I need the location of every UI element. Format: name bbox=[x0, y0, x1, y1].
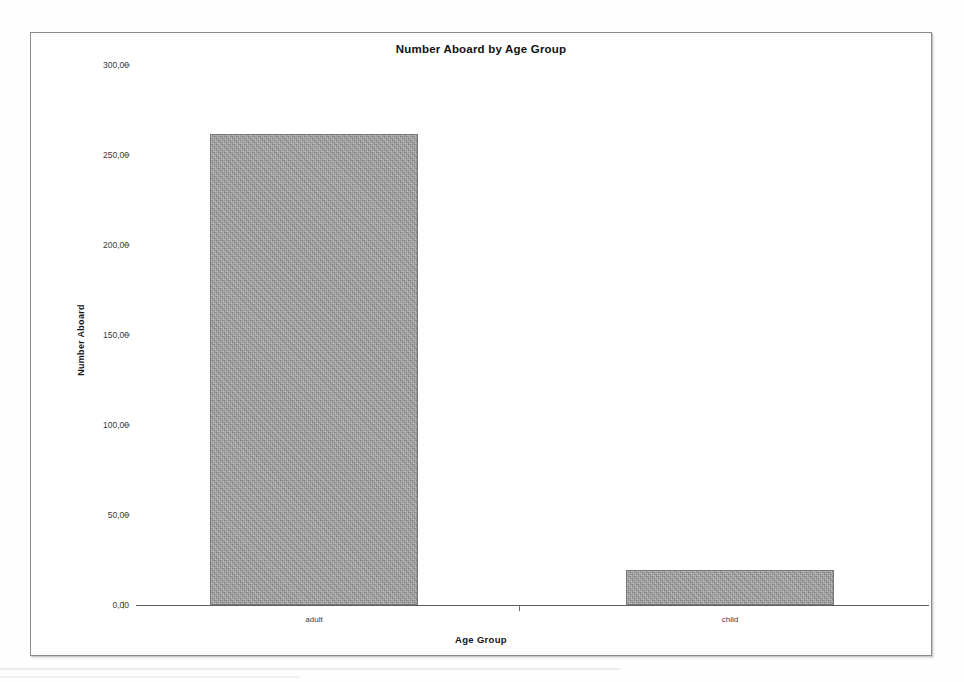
y-tick-mark bbox=[123, 65, 130, 66]
x-category-label-child: child bbox=[722, 615, 738, 624]
chart-frame: Number Aboard by Age Group Number Aboard… bbox=[30, 32, 932, 656]
y-tick-label: 0,00 bbox=[69, 600, 129, 610]
y-tick-mark bbox=[123, 245, 130, 246]
x-axis-tick bbox=[519, 605, 520, 611]
y-axis-tick-labels: 300,00 250,00 200,00 150,00 100,00 50,00… bbox=[59, 33, 129, 655]
x-category-label-adult: adult bbox=[305, 615, 322, 624]
y-tick-label: 150,00 bbox=[69, 330, 129, 340]
y-tick-mark bbox=[123, 155, 130, 156]
y-tick-mark bbox=[123, 425, 130, 426]
x-axis-line bbox=[136, 605, 929, 606]
bar-adult[interactable] bbox=[210, 134, 418, 605]
paper-smudge bbox=[0, 676, 300, 678]
y-tick-mark bbox=[123, 515, 130, 516]
y-tick-label: 50,00 bbox=[69, 510, 129, 520]
y-tick-label: 300,00 bbox=[69, 60, 129, 70]
x-axis-title: Age Group bbox=[31, 634, 931, 645]
paper-smudge bbox=[0, 668, 620, 670]
y-tick-label: 200,00 bbox=[69, 240, 129, 250]
y-tick-label: 100,00 bbox=[69, 420, 129, 430]
y-tick-label: 250,00 bbox=[69, 150, 129, 160]
bar-child[interactable] bbox=[626, 570, 834, 605]
plot-area: Number Aboard 300,00 250,00 200,00 150,0… bbox=[31, 33, 931, 655]
y-tick-mark bbox=[123, 335, 130, 336]
scanned-page-background: Number Aboard by Age Group Number Aboard… bbox=[0, 0, 964, 682]
y-tick-mark bbox=[123, 602, 124, 609]
